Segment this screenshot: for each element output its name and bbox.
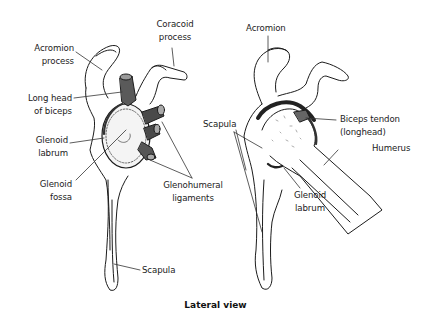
label-glenoid-labrum-right: Glenoid labrum (290, 189, 330, 215)
label-glenohumeral-ligaments: Glenohumeral ligaments (160, 179, 226, 205)
label-line: process (22, 55, 74, 68)
right-scapula-drawing (244, 48, 382, 289)
left-scapula-drawing (85, 45, 187, 290)
figure-caption: Lateral view (0, 300, 431, 310)
label-line: labrum (18, 147, 68, 160)
label-long-head-of-biceps: Long head of biceps (18, 92, 72, 118)
label-glenoid-fossa: Glenoid fossa (20, 178, 72, 204)
label-line: Biceps tendon (340, 113, 400, 126)
label-line: (longhead) (340, 126, 400, 139)
label-line: Long head (18, 92, 72, 105)
label-line: process (150, 31, 200, 44)
label-line: Glenoid (20, 178, 72, 191)
label-coracoid-process: Coracoid process (150, 18, 200, 44)
label-line: Glenoid (18, 134, 68, 147)
label-line: labrum (290, 202, 330, 215)
label-acromion-process: Acromion process (22, 42, 74, 68)
shoulder-anatomy-figure: Acromion process Coracoid process Long h… (0, 0, 431, 325)
label-humerus: Humerus (372, 142, 410, 155)
label-glenoid-labrum: Glenoid labrum (18, 134, 68, 160)
label-line: Coracoid (150, 18, 200, 31)
label-biceps-tendon: Biceps tendon (longhead) (340, 113, 400, 139)
label-line: fossa (20, 191, 72, 204)
label-scapula-right: Scapula (203, 118, 236, 131)
label-line: Acromion (22, 42, 74, 55)
label-line: ligaments (160, 192, 226, 205)
label-scapula-left: Scapula (142, 264, 175, 277)
label-line: of biceps (18, 105, 72, 118)
label-line: Glenohumeral (160, 179, 226, 192)
label-line: Glenoid (290, 189, 330, 202)
label-acromion: Acromion (246, 22, 286, 35)
